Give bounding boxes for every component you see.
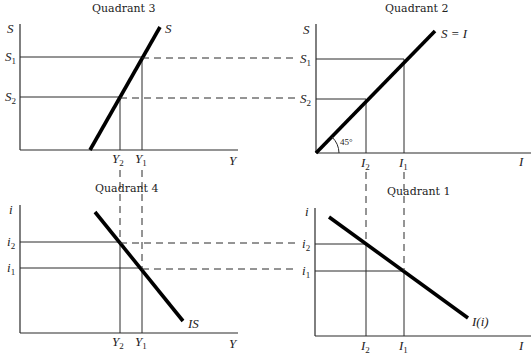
quadrant-1-investment-curve (329, 217, 468, 318)
quadrant-2-y-axis-label: S (303, 22, 310, 37)
quadrant-3-y-axis-label: S (7, 21, 14, 36)
quadrant-1-tick-i1-x: I1 (398, 338, 408, 355)
quadrant-3-tick-y1: Y1 (135, 151, 147, 168)
quadrant-3-tick-y2: Y2 (112, 151, 124, 168)
quadrant-3-x-axis-label: Y (229, 153, 238, 168)
quadrant-2-panel: Quadrant 2 S I S = I 45° S1 S2 I2 I1 (300, 2, 531, 172)
angle-arc-icon (332, 137, 339, 153)
quadrant-3-tick-s1: S1 (5, 49, 16, 66)
quadrant-2-angle-label: 45° (340, 137, 353, 147)
quadrant-2-tick-i2: I2 (360, 155, 370, 172)
quadrant-4-is-curve (95, 212, 183, 321)
quadrant-4-tick-y1: Y1 (135, 334, 147, 351)
quadrant-1-tick-i2: i2 (302, 236, 310, 253)
quadrant-3-saving-curve (90, 27, 160, 150)
quadrant-3-panel: Quadrant 3 S Y S S1 S2 Y2 Y1 (5, 2, 238, 168)
quadrant-2-x-axis-label: I (518, 154, 524, 169)
quadrant-1-panel: Quadrant 1 i I I(i) i2 i1 I2 I1 (302, 185, 531, 355)
quadrant-2-equilibrium-line (316, 31, 435, 153)
quadrant-1-curve-label: I(i) (471, 314, 489, 329)
quadrant-2-tick-i1: I1 (398, 155, 408, 172)
quadrant-4-curve-label: IS (187, 316, 199, 331)
quadrant-4-y-axis-label: i (9, 202, 13, 217)
quadrant-4-tick-i1: i1 (7, 260, 15, 277)
quadrant-1-x-axis-label: I (518, 338, 524, 353)
quadrant-2-tick-s1: S1 (300, 51, 311, 68)
quadrant-4-x-axis-label: Y (229, 336, 238, 351)
quadrant-4-tick-y2: Y2 (112, 334, 124, 351)
quadrant-4-tick-i2: i2 (7, 234, 15, 251)
quadrant-2-title: Quadrant 2 (385, 2, 449, 15)
quadrant-1-tick-i1: i1 (302, 263, 310, 280)
quadrant-3-title: Quadrant 3 (92, 2, 156, 15)
quadrant-1-title: Quadrant 1 (387, 185, 451, 198)
quadrant-1-tick-i2-x: I2 (360, 338, 370, 355)
quadrant-3-curve-label: S (165, 21, 172, 36)
four-quadrant-is-diagram: Quadrant 3 S Y S S1 S2 Y2 Y1 Quadrant 2 … (0, 0, 531, 362)
quadrant-4-title: Quadrant 4 (95, 182, 159, 195)
quadrant-1-y-axis-label: i (305, 204, 309, 219)
quadrant-4-panel: Quadrant 4 i Y IS i2 i1 Y2 Y1 (7, 182, 238, 351)
quadrant-3-tick-s2: S2 (5, 89, 16, 106)
quadrant-2-curve-label: S = I (441, 26, 468, 41)
quadrant-2-tick-s2: S2 (300, 91, 311, 108)
